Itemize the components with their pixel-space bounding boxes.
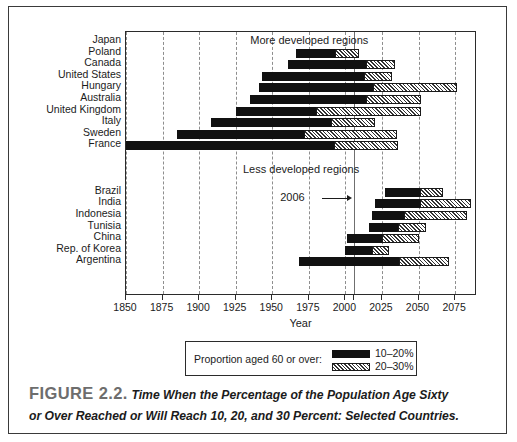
y-label-sweden: Sweden bbox=[17, 127, 121, 138]
bar-segment-10-20 bbox=[299, 257, 400, 266]
bar-segment-20-30 bbox=[398, 223, 426, 232]
x-tick-label-2075: 2075 bbox=[434, 301, 474, 313]
y-label-australia: Australia bbox=[17, 92, 121, 103]
bar-row bbox=[126, 245, 475, 257]
x-tick-label-2000: 2000 bbox=[324, 301, 364, 313]
bar-row bbox=[126, 117, 475, 129]
bar-segment-20-30 bbox=[304, 130, 396, 139]
bar-row bbox=[126, 187, 475, 199]
bar-row bbox=[126, 198, 475, 210]
bar-segment-10-20 bbox=[259, 83, 373, 92]
y-label-united-kingdom: United Kingdom bbox=[17, 104, 121, 115]
x-tick-2050 bbox=[418, 295, 419, 300]
x-tick-label-1875: 1875 bbox=[142, 301, 182, 313]
caption-line-2: or Over Reached or Will Reach 10, 20, an… bbox=[29, 406, 491, 424]
x-tick-1850 bbox=[125, 295, 126, 300]
bar-segment-10-20 bbox=[375, 199, 420, 208]
bar-row bbox=[126, 233, 475, 245]
x-tick-2000 bbox=[344, 295, 345, 300]
bar-segment-20-30 bbox=[372, 246, 390, 255]
legend: Proportion aged 60 or over: 10–20% 20–30… bbox=[185, 341, 417, 376]
x-tick-label-2025: 2025 bbox=[361, 301, 401, 313]
caption-line-1: FIGURE 2.2. Time When the Percentage of … bbox=[29, 384, 491, 404]
caption-text-1: Time When the Percentage of the Populati… bbox=[131, 388, 448, 402]
legend-label-10-20: 10–20% bbox=[375, 347, 414, 359]
x-axis-tick-labels: 1850187519001925195019752000202520502075 bbox=[9, 301, 508, 315]
bar-segment-10-20 bbox=[250, 95, 366, 104]
bar-segment-10-20 bbox=[288, 60, 366, 69]
section-title-less-developed: Less developed regions bbox=[243, 163, 359, 175]
bar-segment-10-20 bbox=[177, 130, 304, 139]
bar-segment-10-20 bbox=[372, 211, 404, 220]
x-tick-2025 bbox=[381, 295, 382, 300]
y-label-poland: Poland bbox=[17, 46, 121, 57]
bar-row bbox=[126, 48, 475, 60]
y-label-canada: Canada bbox=[17, 57, 121, 68]
bar-segment-20-30 bbox=[399, 257, 449, 266]
bar-segment-20-30 bbox=[366, 95, 422, 104]
x-tick-label-1850: 1850 bbox=[105, 301, 145, 313]
x-tick-1950 bbox=[271, 295, 272, 300]
x-tick-label-1900: 1900 bbox=[178, 301, 218, 313]
bar-segment-10-20 bbox=[347, 234, 382, 243]
chart-area: JapanPolandCanadaUnited StatesHungaryAus… bbox=[9, 7, 508, 435]
bar-row bbox=[126, 140, 475, 152]
y-label-rep-of-korea: Rep. of Korea bbox=[17, 243, 121, 254]
bar-row bbox=[126, 256, 475, 268]
bar-row bbox=[126, 94, 475, 106]
bar-segment-20-30 bbox=[420, 188, 443, 197]
bar-segment-20-30 bbox=[364, 72, 392, 81]
bar-segment-20-30 bbox=[335, 49, 358, 58]
y-label-brazil: Brazil bbox=[17, 185, 121, 196]
y-label-hungary: Hungary bbox=[17, 80, 121, 91]
bar-row bbox=[126, 36, 475, 48]
plot-area: More developed regions Less developed re… bbox=[125, 31, 476, 295]
bar-segment-10-20 bbox=[211, 118, 331, 127]
bar-segment-20-30 bbox=[404, 211, 467, 220]
bar-segment-10-20 bbox=[369, 223, 398, 232]
y-label-united-states: United States bbox=[17, 69, 121, 80]
y-label-china: China bbox=[17, 231, 121, 242]
bar-row bbox=[126, 106, 475, 118]
legend-swatch-solid bbox=[332, 350, 370, 358]
bar-segment-10-20 bbox=[236, 107, 316, 116]
x-tick-1925 bbox=[235, 295, 236, 300]
legend-label-20-30: 20–30% bbox=[375, 360, 414, 372]
bar-row bbox=[126, 210, 475, 222]
x-tick-1875 bbox=[162, 295, 163, 300]
bar-segment-20-30 bbox=[331, 118, 375, 127]
y-label-france: France bbox=[17, 138, 121, 149]
bar-segment-10-20 bbox=[385, 188, 420, 197]
bar-segment-20-30 bbox=[420, 199, 471, 208]
x-tick-2006 bbox=[353, 295, 354, 300]
bar-segment-10-20 bbox=[262, 72, 364, 81]
y-label-italy: Italy bbox=[17, 115, 121, 126]
bar-row bbox=[126, 59, 475, 71]
x-tick-2075 bbox=[454, 295, 455, 300]
y-label-argentina: Argentina bbox=[17, 254, 121, 265]
y-label-india: India bbox=[17, 196, 121, 207]
figure-caption: FIGURE 2.2. Time When the Percentage of … bbox=[29, 384, 491, 424]
bar-segment-20-30 bbox=[316, 107, 421, 116]
bar-segment-10-20 bbox=[296, 49, 335, 58]
bar-segment-20-30 bbox=[366, 60, 395, 69]
y-label-japan: Japan bbox=[17, 34, 121, 45]
bar-segment-10-20 bbox=[126, 141, 334, 150]
x-tick-1900 bbox=[198, 295, 199, 300]
figure-frame: JapanPolandCanadaUnited StatesHungaryAus… bbox=[8, 6, 507, 434]
bar-segment-20-30 bbox=[373, 83, 456, 92]
x-tick-label-1925: 1925 bbox=[215, 301, 255, 313]
x-axis-title: Year bbox=[125, 317, 476, 329]
bar-row bbox=[126, 82, 475, 94]
y-axis-labels: JapanPolandCanadaUnited StatesHungaryAus… bbox=[9, 31, 121, 295]
bar-row bbox=[126, 71, 475, 83]
bar-segment-20-30 bbox=[382, 234, 419, 243]
x-tick-1975 bbox=[308, 295, 309, 300]
y-label-indonesia: Indonesia bbox=[17, 208, 121, 219]
x-tick-label-1975: 1975 bbox=[288, 301, 328, 313]
x-tick-label-1950: 1950 bbox=[251, 301, 291, 313]
y-label-tunisia: Tunisia bbox=[17, 220, 121, 231]
bar-row bbox=[126, 222, 475, 234]
legend-title: Proportion aged 60 or over: bbox=[194, 353, 322, 365]
bar-segment-20-30 bbox=[334, 141, 398, 150]
